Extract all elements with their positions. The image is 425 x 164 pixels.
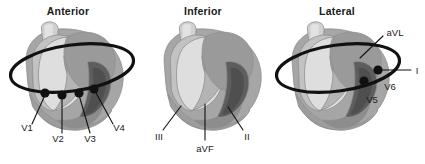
lead-label-avl: aVL: [387, 27, 404, 38]
lead-label-v1: V1: [21, 122, 33, 133]
lead-label-v5: V5: [366, 94, 378, 105]
panel-title-anterior: Anterior: [47, 5, 89, 17]
electrode-dot-v2: [57, 90, 66, 99]
lead-label-ii: II: [244, 131, 249, 142]
lead-label-iii: III: [155, 131, 163, 142]
lead-label-i: I: [416, 65, 419, 76]
lead-label-v4: V4: [113, 122, 125, 133]
panel-title-inferior: Inferior: [184, 5, 222, 17]
ecg-lead-territories-figure: Anterior V1 V2 V3 V4 Inferior III aVF II: [0, 0, 425, 164]
electrode-dot-v5: [359, 76, 368, 85]
electrode-dot-v4: [89, 84, 98, 93]
lead-label-v3: V3: [84, 133, 96, 144]
electrode-dot-v6: [373, 65, 382, 74]
lead-label-v6: V6: [384, 81, 396, 92]
electrode-dot-v3: [74, 88, 83, 97]
electrode-dot-v1: [40, 88, 49, 97]
panel-title-lateral: Lateral: [319, 5, 355, 17]
lead-label-v2: V2: [52, 133, 64, 144]
lead-label-avf: aVF: [196, 143, 214, 154]
